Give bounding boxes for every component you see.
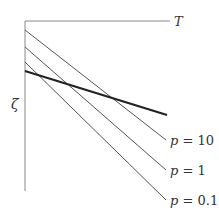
label-p-1: p = 1 xyxy=(170,163,206,178)
x-axis-label: T xyxy=(174,14,184,29)
line-p-10 xyxy=(25,30,166,140)
line-p-0-1 xyxy=(25,62,166,200)
zeta-vs-temperature-diagram: T ζ p = 10 p = 1 p = 0.1 xyxy=(0,0,219,213)
label-p-0-1: p = 0.1 xyxy=(170,193,218,208)
label-p-10: p = 10 xyxy=(170,133,214,148)
y-axis-label: ζ xyxy=(11,96,20,112)
